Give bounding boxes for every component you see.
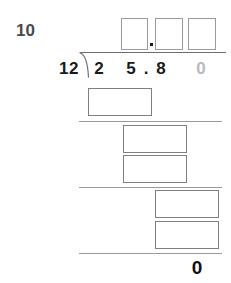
work-box-4[interactable] (155, 190, 219, 218)
work-box-3[interactable] (123, 155, 187, 183)
problem-number: 10 (16, 21, 35, 41)
quotient-digit-box-2[interactable] (155, 18, 183, 50)
long-division-worksheet: 10 12 2 5 . 8 0 0 (0, 0, 231, 283)
work-box-1[interactable] (88, 88, 152, 116)
subtraction-rule-1 (79, 121, 222, 122)
dividend-digit-2: 5 (124, 59, 138, 79)
work-box-2[interactable] (123, 125, 187, 153)
divisor: 12 (59, 59, 79, 79)
dividend-appended-zero: 0 (194, 59, 208, 79)
quotient-digit-box-3[interactable] (188, 18, 216, 50)
final-remainder: 0 (188, 257, 206, 279)
division-vinculum (80, 52, 226, 53)
subtraction-rule-3 (79, 253, 222, 254)
quotient-digit-box-1[interactable] (121, 18, 148, 50)
division-bracket-icon (79, 52, 90, 78)
quotient-decimal-point-icon (150, 43, 153, 46)
work-box-5[interactable] (155, 221, 219, 249)
dividend-digit-3: 8 (154, 59, 168, 79)
dividend-decimal-point: . (142, 59, 150, 79)
dividend-digit-1: 2 (92, 59, 106, 79)
subtraction-rule-2 (79, 187, 222, 188)
